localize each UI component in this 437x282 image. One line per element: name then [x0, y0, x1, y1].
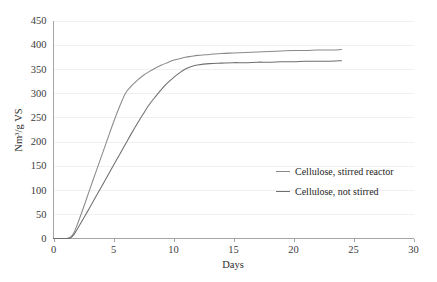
x-axis-title: Days	[222, 259, 244, 270]
chart-background	[0, 0, 437, 282]
y-axis-title: Nm3/g VS	[13, 108, 25, 151]
chart-figure: 050100150200250300350400450 051015202530…	[0, 0, 437, 282]
x-tick-label-20: 20	[288, 244, 299, 255]
x-tick-label-15: 15	[228, 244, 239, 255]
y-tick-label-400: 400	[31, 39, 47, 50]
line-chart: 050100150200250300350400450 051015202530…	[0, 0, 437, 282]
svg-text:Nm3/g VS: Nm3/g VS	[13, 108, 25, 151]
y-tick-label-0: 0	[41, 233, 46, 244]
y-tick-label-50: 50	[36, 209, 47, 220]
y-axis-title-tail: /g VS	[13, 108, 24, 132]
x-tick-label-5: 5	[111, 244, 116, 255]
y-tick-label-250: 250	[31, 112, 47, 123]
legend-label-cellulose-stirred-reactor: Cellulose, stirred reactor	[295, 166, 394, 177]
x-tick-label-25: 25	[348, 244, 359, 255]
legend-label-cellulose-not-stirred: Cellulose, not stirred	[295, 186, 379, 197]
y-tick-label-200: 200	[31, 136, 47, 147]
x-tick-label-0: 0	[51, 244, 56, 255]
y-tick-label-150: 150	[31, 160, 47, 171]
y-tick-label-350: 350	[31, 64, 47, 75]
y-tick-label-100: 100	[31, 185, 47, 196]
x-tick-label-10: 10	[168, 244, 179, 255]
y-axis-title-base: Nm	[13, 136, 24, 152]
y-tick-label-300: 300	[31, 88, 47, 99]
y-tick-label-450: 450	[31, 15, 47, 26]
x-tick-label-30: 30	[408, 244, 419, 255]
